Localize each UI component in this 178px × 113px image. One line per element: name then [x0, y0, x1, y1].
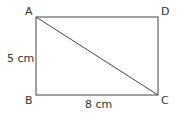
- diagonal-ac: [36, 17, 158, 95]
- side-length-ab: 5 cm: [7, 52, 34, 65]
- side-length-bc: 8 cm: [85, 98, 112, 111]
- vertex-label-a: A: [25, 5, 33, 18]
- vertex-label-d: D: [161, 5, 169, 18]
- vertex-label-b: B: [25, 94, 33, 107]
- rectangle-diagram: A D B C 5 cm 8 cm: [0, 0, 178, 113]
- vertex-label-c: C: [161, 94, 169, 107]
